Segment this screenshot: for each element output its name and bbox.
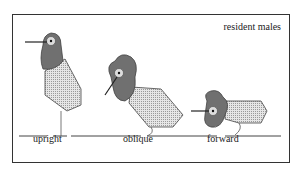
figure-title: resident males (224, 21, 281, 32)
posture-label-upright: upright (33, 133, 62, 144)
posture-label-forward: forward (207, 133, 239, 144)
forward-bird (191, 91, 267, 135)
oblique-bird (105, 55, 183, 136)
posture-label-oblique: oblique (123, 133, 153, 144)
posture-diagram: resident males upright oblique forward (12, 14, 290, 163)
upright-bird (25, 33, 81, 136)
